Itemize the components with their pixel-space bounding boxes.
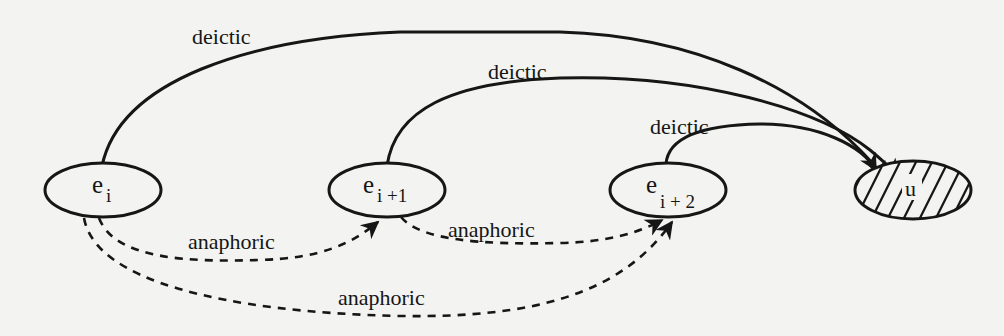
node-label-base: e [646, 171, 657, 198]
edge-anaphoric-ei1-ei2: anaphoric [401, 217, 662, 243]
edge-anaphoric-ei-ei1: anaphoric [99, 218, 378, 261]
node-label-base: e [92, 171, 103, 198]
edge-label-anaphoric-3: anaphoric [338, 285, 425, 310]
edge-deictic-ei2-u: deictic [650, 114, 876, 170]
edge-anaphoric-ei-ei2: anaphoric [84, 218, 672, 316]
edge-label-deictic-3: deictic [650, 114, 709, 139]
edge-label-anaphoric-2: anaphoric [448, 217, 535, 242]
node-label-base: e [363, 171, 374, 198]
node-label-base: u [905, 176, 916, 201]
node-label-sub: i + 2 [660, 191, 695, 212]
reference-diagram: deictic deictic deictic anaphoric anapho… [0, 0, 1004, 336]
node-u-hatched: u [834, 150, 986, 230]
node-e-i-plus-1: e i +1 [329, 163, 445, 217]
edge-label-deictic-1: deictic [192, 24, 251, 49]
node-e-i-plus-2: e i + 2 [610, 163, 726, 217]
edge-label-deictic-2: deictic [488, 59, 547, 84]
edge-label-anaphoric-1: anaphoric [188, 229, 275, 254]
node-e-i: e i [45, 163, 161, 217]
node-label-sub: i [106, 185, 111, 206]
node-label-sub: i +1 [377, 185, 407, 206]
